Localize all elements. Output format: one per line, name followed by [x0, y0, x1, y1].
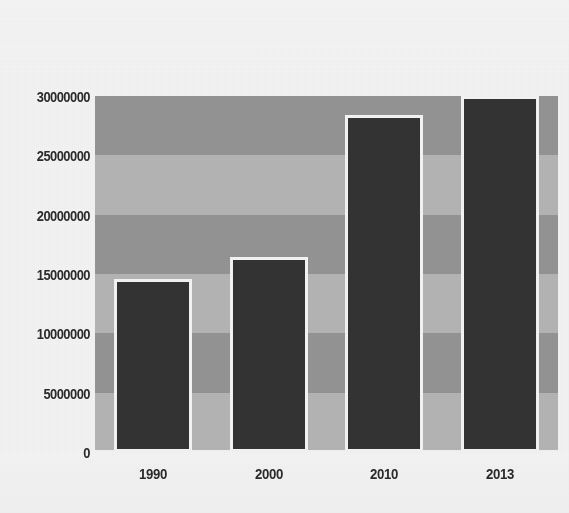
y-axis-tick-label: 0: [16, 445, 90, 460]
y-axis-tick-label: 15000000: [16, 267, 90, 282]
bars-layer: [95, 96, 558, 452]
x-axis-tick-label: 2000: [233, 466, 303, 481]
bar-2010: [345, 115, 423, 452]
bar-1990: [114, 279, 192, 452]
x-axis-tick-label: 2010: [349, 466, 419, 481]
bar-2013: [461, 96, 539, 452]
x-axis-tick-label: 2013: [465, 466, 535, 481]
y-axis-tick-label: 5000000: [16, 386, 90, 401]
plot-area: [95, 96, 558, 452]
x-axis-baseline: [95, 450, 560, 453]
y-axis-tick-label: 25000000: [16, 148, 90, 163]
y-axis-tick-labels: 0500000010000000150000002000000025000000…: [0, 0, 90, 513]
bar-2000: [230, 257, 308, 452]
y-axis-tick-label: 20000000: [16, 208, 90, 223]
bar-chart-figure: 0500000010000000150000002000000025000000…: [0, 0, 569, 513]
y-axis-tick-label: 10000000: [16, 326, 90, 341]
x-axis-tick-label: 1990: [118, 466, 188, 481]
y-axis-tick-label: 30000000: [16, 89, 90, 104]
